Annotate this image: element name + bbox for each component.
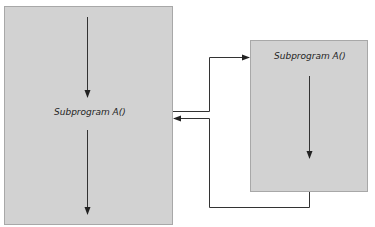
flow-arrows: [0, 0, 375, 227]
call-connector-arrow: [173, 58, 249, 112]
return-connector-arrow: [174, 119, 310, 208]
